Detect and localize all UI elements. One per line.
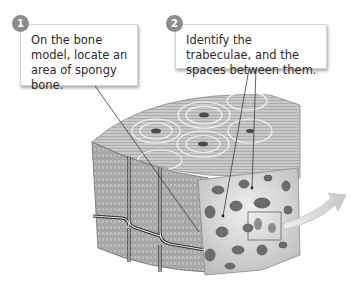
step-2-badge: 2	[166, 15, 183, 32]
spongy-bone-block	[198, 168, 300, 275]
step-1-callout: On the bone model, locate an area of spo…	[20, 24, 138, 86]
step-2-number: 2	[171, 18, 178, 29]
step-1-badge: 1	[12, 15, 29, 32]
leader-dot-trabecula	[222, 215, 225, 218]
step-2-callout: Identify the trabeculae, and the spaces …	[175, 24, 327, 69]
step-1-text: On the bone model, locate an area of spo…	[31, 33, 127, 92]
step-2-text: Identify the trabeculae, and the spaces …	[186, 33, 317, 77]
diagram-stage: 1 On the bone model, locate an area of s…	[0, 0, 352, 287]
leader-dot-space	[251, 187, 254, 190]
step-1-number: 1	[17, 18, 24, 29]
